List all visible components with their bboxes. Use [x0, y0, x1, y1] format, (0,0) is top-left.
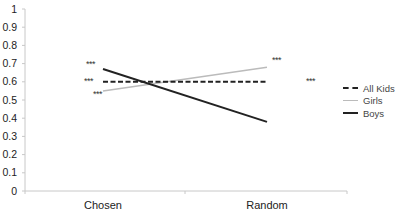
x-category-label: Chosen	[84, 199, 122, 211]
y-tick-label: 0.7	[2, 57, 17, 69]
legend-item-boys: Boys	[343, 107, 395, 120]
y-axis: 00.10.20.30.40.50.60.70.80.91	[2, 3, 25, 197]
y-tick-label: 0.3	[2, 130, 17, 142]
y-tick-label: 0.5	[2, 94, 17, 106]
legend: All Kids Girls Boys	[343, 82, 395, 120]
significance-marker: ***	[86, 59, 96, 69]
dashed-line-swatch-icon	[343, 87, 358, 89]
significance-marker: ***	[93, 89, 103, 99]
y-tick-label: 0.9	[2, 21, 17, 33]
significance-marker: ***	[306, 76, 316, 86]
y-tick-label: 0	[11, 185, 17, 197]
x-axis: ChosenRandom	[25, 191, 347, 211]
y-tick-label: 0.8	[2, 39, 17, 51]
solid-line-swatch-icon	[343, 112, 358, 114]
x-category-label: Random	[246, 199, 288, 211]
y-tick-label: 0.6	[2, 75, 17, 87]
legend-item-girls: Girls	[343, 95, 395, 108]
legend-label: All Kids	[363, 83, 395, 94]
legend-label: Girls	[363, 95, 383, 106]
legend-label: Boys	[363, 108, 384, 119]
y-tick-label: 1	[11, 3, 17, 15]
series-lines	[103, 67, 267, 122]
significance-marker: ***	[272, 55, 282, 65]
significance-marker: ***	[84, 76, 94, 86]
y-tick-label: 0.4	[2, 112, 17, 124]
series-line-boys	[103, 69, 267, 122]
series-line-girls	[103, 67, 267, 91]
legend-item-all-kids: All Kids	[343, 82, 395, 95]
y-tick-label: 0.2	[2, 148, 17, 160]
y-tick-label: 0.1	[2, 166, 17, 178]
light-line-swatch-icon	[343, 100, 358, 101]
